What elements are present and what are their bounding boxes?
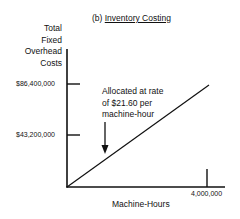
rate-annotation: Allocated at rate of $21.60 per machine-… <box>102 86 163 121</box>
arrow-down-icon <box>102 145 109 154</box>
annotation-line: machine-hour <box>102 109 163 121</box>
x-axis-label: Machine-Hours <box>112 199 170 209</box>
annotation-line: of $21.60 per <box>102 98 163 110</box>
annotation-line: Allocated at rate <box>102 86 163 98</box>
